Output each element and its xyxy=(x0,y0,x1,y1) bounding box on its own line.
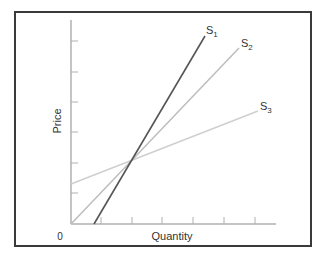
series-s3-line xyxy=(71,111,258,184)
y-ticks xyxy=(71,41,78,193)
series-s2-label: S2 xyxy=(241,37,253,52)
series-s1-line xyxy=(94,36,205,224)
series-s3-label: S3 xyxy=(260,100,272,115)
origin-label: 0 xyxy=(57,231,63,242)
x-axis-label: Quantity xyxy=(152,230,193,242)
series-s1-label: S1 xyxy=(206,24,218,39)
y-axis-label: Price xyxy=(51,108,63,133)
x-ticks xyxy=(101,217,255,224)
series-s2-line xyxy=(71,48,239,224)
supply-chart: S1 S2 S3 Price Quantity 0 xyxy=(0,0,319,260)
